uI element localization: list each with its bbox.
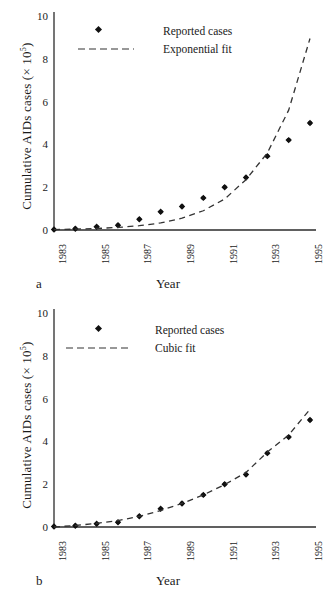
x-tick-label: 1987 bbox=[143, 244, 153, 264]
y-tick-label: 2 bbox=[28, 182, 48, 193]
y-tick-label: 8 bbox=[28, 54, 48, 65]
y-tick-label: 0 bbox=[28, 225, 48, 236]
x-axis-title-b: Year bbox=[108, 573, 228, 589]
y-tick-label: 10 bbox=[28, 11, 48, 22]
y-tick-label: 0 bbox=[28, 522, 48, 533]
y-tick-label: 4 bbox=[28, 436, 48, 447]
x-tick-label: 1983 bbox=[58, 541, 68, 561]
y-tick-label: 10 bbox=[28, 308, 48, 319]
x-tick-label: 1991 bbox=[229, 541, 239, 561]
x-tick-label: 1991 bbox=[229, 244, 239, 264]
y-tick-label: 6 bbox=[28, 394, 48, 405]
y-tick-label: 8 bbox=[28, 351, 48, 362]
panel-letter-b: b bbox=[36, 573, 43, 589]
legend-label-reported-cases-a: Reported cases bbox=[163, 25, 232, 37]
x-tick-label: 1987 bbox=[143, 541, 153, 561]
x-tick-label: 1983 bbox=[58, 244, 68, 264]
x-tick-label: 1985 bbox=[101, 244, 111, 264]
legend-label-reported-cases-b: Reported cases bbox=[155, 324, 224, 336]
x-tick-label: 1985 bbox=[101, 541, 111, 561]
chart-panel-b: Cumulative AIDs cases (× 105) b Year Rep… bbox=[0, 299, 330, 598]
x-tick-label: 1995 bbox=[314, 541, 324, 561]
x-tick-label: 1989 bbox=[186, 541, 196, 561]
y-tick-label: 6 bbox=[28, 97, 48, 108]
legend-dashed-line-icon-b bbox=[66, 346, 128, 350]
y-tick-label: 4 bbox=[28, 139, 48, 150]
x-tick-label: 1993 bbox=[271, 541, 281, 561]
x-tick-label: 1993 bbox=[271, 244, 281, 264]
chart-panel-a: Cumulative AIDs cases (× 105) a Year Rep… bbox=[0, 0, 330, 299]
x-tick-label: 1989 bbox=[186, 244, 196, 264]
x-tick-label: 1995 bbox=[314, 244, 324, 264]
panel-letter-a: a bbox=[36, 276, 42, 292]
legend-label-fit-a: Exponential fit bbox=[163, 43, 232, 55]
y-tick-label: 2 bbox=[28, 479, 48, 490]
legend-dashed-line-icon-a bbox=[78, 47, 134, 51]
legend-label-fit-b: Cubic fit bbox=[155, 342, 196, 354]
x-axis-title-a: Year bbox=[108, 276, 228, 292]
